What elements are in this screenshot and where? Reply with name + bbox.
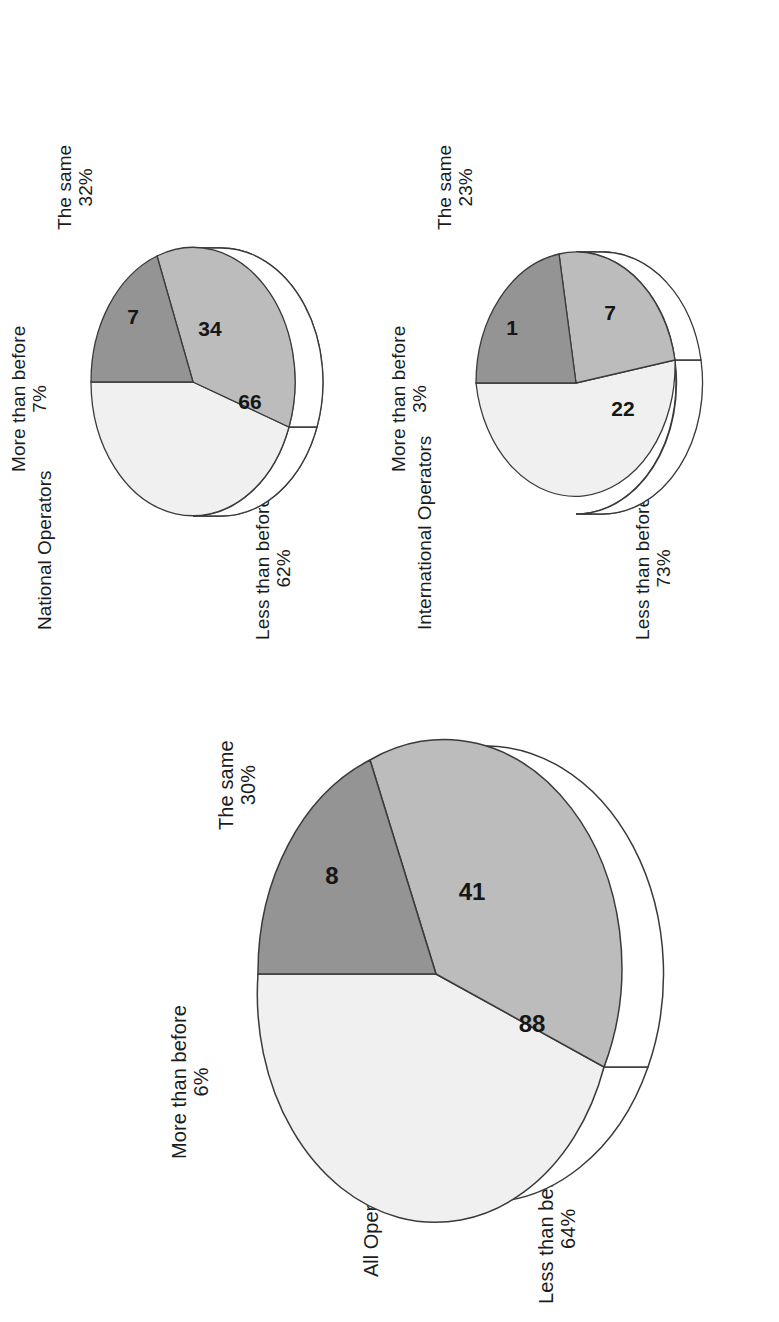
callout-same-pct: 23% bbox=[455, 145, 476, 230]
callout-more-name: More than before bbox=[388, 326, 409, 472]
pie-graphic-all: 88 41 8 bbox=[240, 732, 660, 1212]
slice-value-more-national: 7 bbox=[127, 305, 139, 328]
slice-value-less-all: 88 bbox=[519, 1010, 546, 1037]
callout-more-pct: 7% bbox=[29, 326, 50, 472]
pie-graphic-national: 66 34 7 bbox=[75, 242, 325, 522]
callout-more-name: More than before bbox=[8, 326, 29, 472]
callout-more-than-before-national: More than before 7% bbox=[8, 326, 51, 472]
callout-the-same-national: The same 32% bbox=[54, 145, 97, 230]
callout-the-same-international: The same 23% bbox=[434, 145, 477, 230]
slice-value-more-all: 8 bbox=[325, 862, 338, 889]
pie-graphic-international: 22 7 1 bbox=[460, 245, 705, 520]
callout-same-name: The same bbox=[54, 145, 75, 230]
chart-title-national-operators: National Operators bbox=[34, 471, 56, 630]
pie-chart-international-operators: International Operators Less than before… bbox=[380, 0, 760, 660]
slice-value-same-national: 34 bbox=[198, 317, 222, 340]
slice-value-less-international: 22 bbox=[611, 397, 634, 420]
callout-more-name: More than before bbox=[168, 1005, 190, 1159]
slice-value-same-international: 7 bbox=[604, 301, 616, 324]
callout-more-than-before-international: More than before 3% bbox=[388, 326, 431, 472]
callout-same-name: The same bbox=[215, 740, 237, 830]
callout-more-than-before-all: More than before 6% bbox=[168, 1005, 213, 1159]
callout-same-pct: 32% bbox=[75, 145, 96, 230]
callout-same-name: The same bbox=[434, 145, 455, 230]
callout-more-pct: 3% bbox=[409, 326, 430, 472]
slice-value-same-all: 41 bbox=[459, 878, 486, 905]
slice-value-more-international: 1 bbox=[506, 316, 518, 339]
slice-value-less-national: 66 bbox=[238, 390, 261, 413]
figure-canvas: National Operators Less than before 62% … bbox=[0, 0, 779, 1322]
callout-more-pct: 6% bbox=[190, 1005, 212, 1159]
pie-chart-all-operators: All Operators Less than before 64% More … bbox=[130, 660, 779, 1322]
pie-chart-national-operators: National Operators Less than before 62% … bbox=[0, 0, 380, 660]
